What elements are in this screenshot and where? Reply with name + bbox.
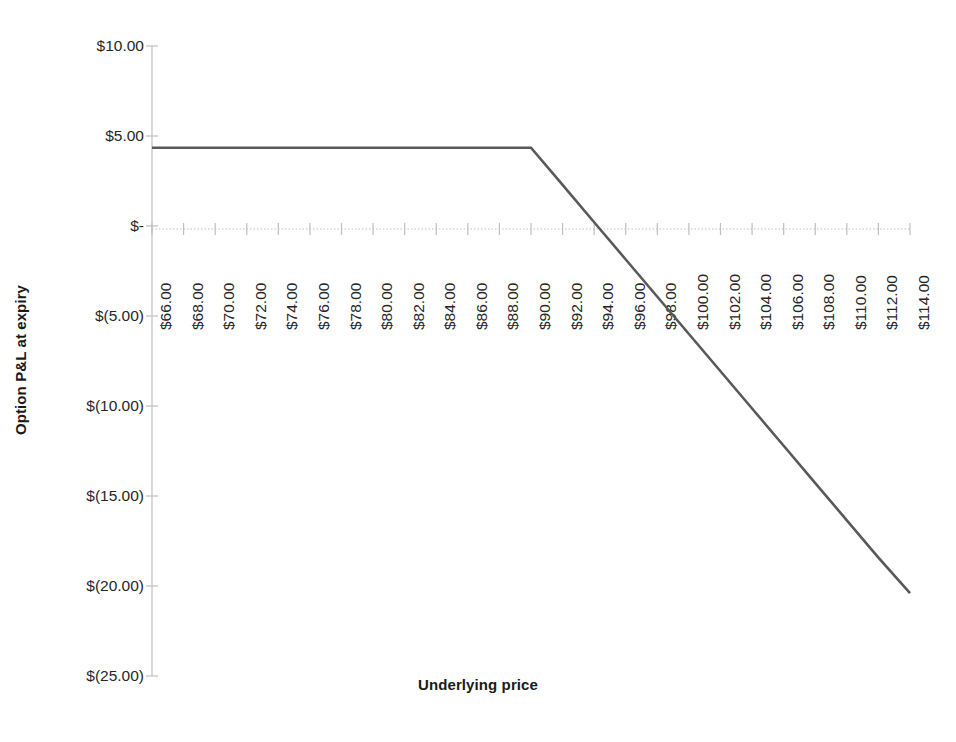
x-axis-title-text: Underlying price: [418, 676, 538, 693]
payoff-line: [152, 148, 910, 594]
plot-area: [0, 0, 956, 742]
option-pnl-chart: Option P&L at expiry $10.00$5.00$-$(5.00…: [0, 0, 956, 742]
x-axis-title: Underlying price: [0, 676, 956, 693]
